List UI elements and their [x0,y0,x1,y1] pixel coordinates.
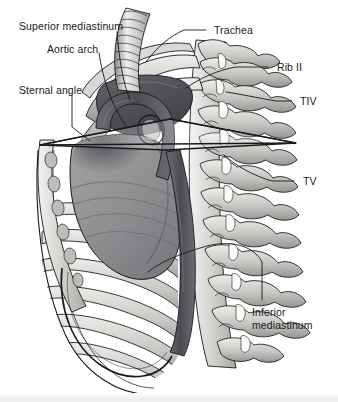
label-tiv: TIV [300,95,317,108]
label-superior-mediastinum: Superior mediastinum [19,20,123,33]
label-sternal-angle: Sternal angle [19,84,82,97]
label-aortic-arch: Aortic arch [47,43,98,56]
label-trachea: Trachea [214,24,253,37]
label-rib-ii: Rib II [277,61,302,74]
label-inferior-mediastinum-line2: mediastinum [252,319,313,332]
bottom-edge-band [0,393,338,402]
label-inferior-mediastinum-line1: Inferior [252,306,285,319]
figure-canvas: Superior mediastinum Aortic arch Sternal… [0,0,338,402]
label-tv: TV [303,175,317,188]
